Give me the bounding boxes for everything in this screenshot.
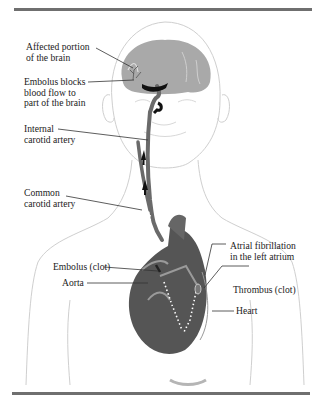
label-atrial-fibrillation: Atrial fibrillation in the left atrium bbox=[230, 241, 296, 262]
heart bbox=[129, 215, 208, 354]
label-internal-carotid: Internal carotid artery bbox=[24, 124, 75, 145]
label-heart: Heart bbox=[236, 306, 257, 317]
label-embolus-blocks: Embolus blocks blood flow to part of the… bbox=[24, 77, 86, 109]
label-aorta: Aorta bbox=[62, 278, 84, 289]
label-thrombus-clot: Thrombus (clot) bbox=[233, 285, 296, 296]
label-common-carotid: Common carotid artery bbox=[24, 188, 75, 209]
label-affected-brain: Affected portion of the brain bbox=[26, 42, 90, 63]
label-embolus-clot: Embolus (clot) bbox=[53, 262, 110, 273]
